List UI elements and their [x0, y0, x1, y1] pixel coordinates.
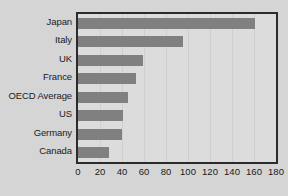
category-axis-labels: JapanItalyUKFranceOECD AverageUSGermanyC… [0, 12, 74, 164]
category-label-japan: Japan [47, 12, 72, 31]
bar-row [78, 33, 276, 52]
bar-row [78, 107, 276, 126]
bar-canada [78, 147, 109, 158]
category-label-uk: UK [59, 49, 72, 68]
bar-france [78, 73, 136, 84]
bar-row [78, 14, 276, 33]
bar-row [78, 144, 276, 163]
category-label-france: France [43, 68, 72, 87]
bar-oecd-average [78, 92, 128, 103]
plot-area [76, 12, 278, 164]
x-tick-label: 120 [202, 166, 218, 177]
gridline [276, 14, 277, 162]
category-label-oecd-average: OECD Average [8, 86, 72, 105]
x-tick-label: 0 [75, 166, 80, 177]
bar-japan [78, 18, 255, 29]
x-tick-label: 40 [117, 166, 128, 177]
bar-row [78, 125, 276, 144]
bars-layer [78, 14, 276, 162]
x-tick-label: 60 [139, 166, 150, 177]
bar-germany [78, 129, 122, 140]
category-label-canada: Canada [39, 142, 72, 161]
bar-row [78, 51, 276, 70]
x-tick-label: 160 [246, 166, 262, 177]
bar-row [78, 70, 276, 89]
x-tick-label: 80 [161, 166, 172, 177]
x-tick-label: 180 [268, 166, 284, 177]
bar-chart: JapanItalyUKFranceOECD AverageUSGermanyC… [0, 0, 288, 196]
bar-row [78, 88, 276, 107]
x-tick-label: 100 [180, 166, 196, 177]
category-label-germany: Germany [34, 123, 72, 142]
x-axis-tick-labels: 020406080100120140160180 [76, 166, 278, 182]
category-label-us: US [59, 105, 72, 124]
bar-us [78, 110, 123, 121]
bar-italy [78, 36, 183, 47]
x-tick-label: 20 [95, 166, 106, 177]
bar-uk [78, 55, 143, 66]
category-label-italy: Italy [55, 31, 72, 50]
x-tick-label: 140 [224, 166, 240, 177]
